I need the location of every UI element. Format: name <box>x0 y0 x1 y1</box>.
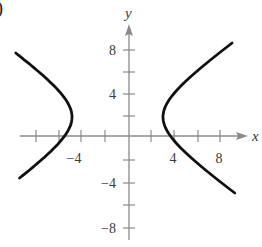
y-tick-label-4: 4 <box>109 87 116 102</box>
y-tick-label-neg8: −8 <box>101 221 116 236</box>
x-axis-label: x <box>251 128 259 144</box>
x-tick-label-neg4: −4 <box>67 151 82 166</box>
y-axis: y 8 4 −4 −8 <box>101 5 135 240</box>
x-tick-label-8: 8 <box>216 151 223 166</box>
hyperbola-chart: x −4 4 8 y 8 4 −4 −8 <box>0 0 262 247</box>
hyperbola-left-branch <box>16 53 72 178</box>
hyperbola-right-branch <box>163 43 235 193</box>
y-axis-label: y <box>123 5 132 21</box>
y-tick-label-8: 8 <box>109 43 116 58</box>
y-tick-label-neg4: −4 <box>101 176 116 191</box>
x-tick-label-4: 4 <box>170 151 177 166</box>
